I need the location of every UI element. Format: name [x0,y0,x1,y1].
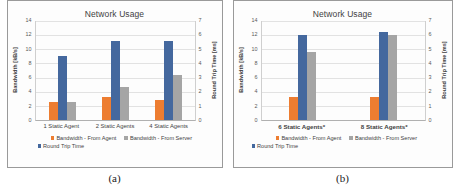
y-tick-right: 4 [199,61,214,66]
y-tick-right: 4 [429,61,444,66]
y-tick-left: 14 [243,18,258,23]
y-tick-left: 8 [17,61,32,66]
y-tick-right: 1 [199,104,214,109]
chart-panel-a: Network Usage Bandwidth [kB/s] Round Tri… [7,0,223,168]
bar-group [142,21,195,120]
bar-group [89,21,142,120]
legend-swatch-icon [349,136,353,140]
y-tick-right: 3 [199,75,214,80]
y-tick-left: 8 [243,61,258,66]
gridline [262,120,425,121]
plot-canvas-a [35,21,196,121]
legend-swatch-icon [252,144,256,148]
bar-groups-a [36,21,195,120]
legend-item[interactable]: Round Trip Time [252,143,299,149]
bar-cluster [289,21,316,120]
bar-agent [289,97,298,120]
legend-label: Bandwidth - From Server [355,135,417,141]
y-tick-right: 2 [199,90,214,95]
bar-rtt [120,87,129,120]
legend-label: Bandwidth - From Server [130,135,192,141]
plot-canvas-b [261,21,426,121]
chart-legend-b: Bandwidth - From AgentBandwidth - From S… [248,135,446,149]
legend-swatch-icon [51,136,55,140]
x-axis-label: 8 Static Agents* [343,123,426,130]
bar-rtt [67,102,76,120]
y-tick-left: 2 [243,104,258,109]
legend-item[interactable]: Round Trip Time [38,143,85,149]
y-tick-left: 14 [17,18,32,23]
y-tick-left: 2 [17,104,32,109]
y-tick-left: 10 [17,47,32,52]
bar-agent [155,100,164,120]
legend-item[interactable]: Bandwidth - From Server [124,135,192,141]
figure-b: Network Usage Bandwidth [kB/s] Round Tri… [232,0,453,184]
x-axis-labels-a: 1 Static Agent2 Static Agents4 Static Ag… [35,123,196,129]
legend-item[interactable]: Bandwidth - From Server [349,135,417,141]
chart-title-b: Network Usage [234,9,452,19]
y-tick-right: 2 [429,90,444,95]
x-axis-label: 4 Static Agents [142,123,196,129]
y-tick-right: 7 [429,18,444,23]
bar-cluster [49,21,76,120]
figure-a: Network Usage Bandwidth [kB/s] Round Tri… [6,0,223,184]
y-axis-ticks-left-b: 14121086420 [243,21,258,121]
legend-label: Bandwidth - From Agent [56,135,116,141]
x-axis-label: 6 Static Agents* [261,123,344,130]
y-axis-ticks-right-a: 76543210 [199,21,214,121]
y-tick-right: 5 [199,47,214,52]
bar-groups-b [262,21,425,120]
legend-label: Round Trip Time [43,143,84,149]
y-tick-right: 7 [199,18,214,23]
bar-cluster [370,21,397,120]
figure-caption-b: (b) [336,172,349,184]
bar-cluster [155,21,182,120]
y-tick-left: 4 [243,90,258,95]
legend-swatch-icon [124,136,128,140]
y-axis-ticks-left-a: 14121086420 [17,21,32,121]
chart-panel-b: Network Usage Bandwidth [kB/s] Round Tri… [233,0,453,168]
bar-server [58,56,67,120]
y-tick-left: 12 [243,33,258,38]
bar-cluster [102,21,129,120]
y-tick-right: 1 [429,104,444,109]
plot-area-b: Bandwidth [kB/s] Round Trip Time [ms] 14… [234,21,452,121]
y-tick-right: 5 [429,47,444,52]
y-tick-left: 6 [243,75,258,80]
x-axis-label: 1 Static Agent [35,123,89,129]
y-tick-right: 0 [429,118,444,123]
bar-rtt [388,35,397,120]
bar-group [262,21,344,120]
legend-row-2: Round Trip Time [30,143,214,149]
y-tick-left: 12 [17,33,32,38]
legend-label: Bandwidth - From Agent [281,135,341,141]
bar-rtt [307,52,316,120]
y-axis-ticks-right-b: 76543210 [429,21,444,121]
y-tick-left: 0 [17,118,32,123]
bar-agent [102,97,111,120]
y-tick-right: 6 [199,33,214,38]
bar-agent [370,97,379,120]
y-tick-left: 6 [17,75,32,80]
bar-group [36,21,89,120]
bar-server [298,35,307,120]
y-tick-right: 3 [429,75,444,80]
plot-area-a: Bandwidth [kB/s] Round Trip Time [ms] 14… [8,21,222,121]
bar-server [379,32,388,120]
chart-title-a: Network Usage [8,9,222,19]
x-axis-labels-b: 6 Static Agents*8 Static Agents* [261,123,426,130]
legend-item[interactable]: Bandwidth - From Agent [276,135,342,141]
bar-agent [49,102,58,120]
gridline [36,120,195,121]
y-tick-right: 0 [199,118,214,123]
chart-legend-a: Bandwidth - From AgentBandwidth - From S… [30,135,214,149]
legend-label: Round Trip Time [257,143,298,149]
bar-group [343,21,425,120]
legend-item[interactable]: Bandwidth - From Agent [51,135,117,141]
bar-rtt [173,75,182,120]
y-tick-right: 6 [429,33,444,38]
x-axis-label: 2 Static Agents [88,123,142,129]
legend-row-2: Round Trip Time [248,143,446,149]
legend-swatch-icon [276,136,280,140]
bar-server [164,41,173,120]
